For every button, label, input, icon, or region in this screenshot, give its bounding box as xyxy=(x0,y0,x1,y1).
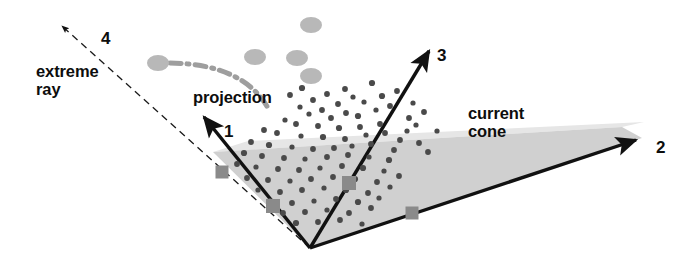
data-point xyxy=(310,97,316,103)
data-point xyxy=(287,178,292,183)
data-point xyxy=(381,168,386,173)
data-point xyxy=(396,173,402,179)
data-point xyxy=(241,150,247,156)
data-point xyxy=(320,134,326,140)
data-point xyxy=(413,122,418,127)
data-point xyxy=(359,221,364,226)
data-point xyxy=(289,200,295,206)
data-point xyxy=(315,219,321,225)
data-point xyxy=(331,145,337,151)
data-point xyxy=(339,163,345,169)
data-point xyxy=(255,187,260,192)
data-point xyxy=(299,85,305,91)
data-point xyxy=(379,93,385,99)
outlier-ellipse-markers xyxy=(147,17,322,84)
label-axis-4: 4 xyxy=(101,29,110,48)
data-point xyxy=(319,107,325,113)
data-point xyxy=(248,139,254,145)
data-point xyxy=(386,157,392,163)
data-point xyxy=(335,101,341,107)
data-point xyxy=(328,115,334,121)
cone-projection-diagram: extreme ray projection current cone 1 2 … xyxy=(0,0,689,269)
data-point xyxy=(410,100,415,105)
data-point xyxy=(404,128,409,133)
label-axis-3: 3 xyxy=(437,46,446,65)
data-point xyxy=(357,124,363,130)
data-point xyxy=(296,167,302,173)
ellipse-marker xyxy=(244,49,266,65)
data-point xyxy=(366,154,371,159)
data-point xyxy=(311,198,316,203)
data-point xyxy=(336,125,342,131)
data-point xyxy=(374,179,380,185)
data-point xyxy=(302,156,307,161)
data-point xyxy=(360,165,366,171)
data-point xyxy=(391,147,397,153)
data-point xyxy=(382,130,388,136)
data-point xyxy=(346,210,352,216)
data-point xyxy=(377,121,383,127)
square-marker xyxy=(342,176,356,190)
data-point xyxy=(345,152,351,158)
data-point xyxy=(376,195,381,200)
data-point xyxy=(274,130,280,136)
label-current-cone: current cone xyxy=(468,104,524,141)
data-point xyxy=(406,115,412,121)
data-point xyxy=(342,86,348,92)
data-point xyxy=(368,205,374,211)
data-point xyxy=(281,155,287,161)
data-point xyxy=(253,164,258,169)
data-point xyxy=(321,185,326,190)
axis-4-extreme-ray xyxy=(62,26,310,248)
data-point xyxy=(330,174,336,180)
data-point xyxy=(373,107,378,112)
data-point xyxy=(277,189,283,195)
data-point xyxy=(350,94,355,99)
data-point xyxy=(310,146,316,152)
data-point xyxy=(289,144,294,149)
ellipse-marker xyxy=(286,50,308,66)
ellipse-marker xyxy=(300,17,322,33)
data-point xyxy=(293,220,299,226)
data-point xyxy=(324,207,329,212)
label-axis-2: 2 xyxy=(656,138,665,157)
data-point xyxy=(369,80,375,86)
data-point xyxy=(416,140,422,146)
data-point xyxy=(349,143,354,148)
data-point xyxy=(355,199,361,205)
data-point xyxy=(434,128,439,133)
data-point xyxy=(365,190,371,196)
label-extreme-ray: extreme ray xyxy=(36,62,99,99)
data-point xyxy=(343,110,349,116)
square-marker xyxy=(266,199,280,213)
data-point xyxy=(361,99,366,104)
data-point xyxy=(261,127,267,133)
data-point xyxy=(387,103,393,109)
label-axis-1: 1 xyxy=(224,122,233,141)
data-point xyxy=(342,136,348,142)
data-point xyxy=(368,141,374,147)
data-point xyxy=(282,117,287,122)
data-point xyxy=(244,175,250,181)
data-point xyxy=(299,187,305,193)
square-marker xyxy=(406,207,419,220)
data-point xyxy=(293,121,299,127)
data-point xyxy=(324,154,330,160)
data-point xyxy=(315,123,321,129)
data-point xyxy=(306,111,311,116)
data-point xyxy=(363,132,368,137)
ellipse-marker xyxy=(147,55,169,71)
data-point xyxy=(266,142,272,148)
square-marker xyxy=(216,166,229,179)
data-point xyxy=(421,109,427,115)
data-point xyxy=(425,149,431,155)
data-point xyxy=(287,92,293,98)
data-point xyxy=(234,161,240,167)
data-point xyxy=(387,184,392,189)
data-point xyxy=(298,133,303,138)
data-point xyxy=(397,137,403,143)
data-point xyxy=(297,104,302,109)
data-point xyxy=(324,91,330,97)
data-point xyxy=(259,153,265,159)
data-point xyxy=(317,165,322,170)
